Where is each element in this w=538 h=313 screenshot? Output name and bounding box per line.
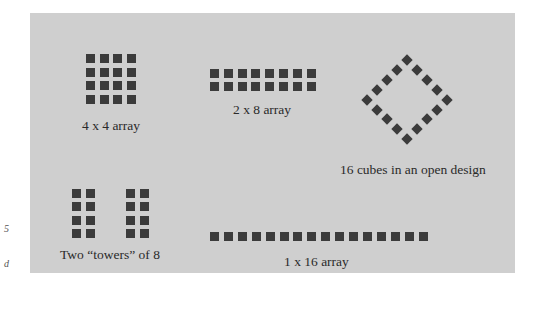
cube [251,69,260,78]
cube [86,202,95,211]
cube [210,69,219,78]
cube [127,81,136,90]
cube [100,95,109,104]
cube [421,114,432,125]
cube [307,232,316,241]
edge-text-fragment: 5 [4,223,9,234]
cube [86,216,95,225]
cube [113,68,122,77]
cube [126,229,135,238]
cube [391,64,402,75]
cube [113,81,122,90]
cube [140,216,149,225]
cube [431,104,442,115]
cube [372,104,383,115]
cube [382,74,393,85]
cube [113,95,122,104]
cube [411,124,422,135]
cube [113,54,122,63]
cube [127,95,136,104]
cube [126,202,135,211]
cube [411,64,422,75]
cube [72,229,81,238]
figure-panel: 4 x 4 array 2 x 8 array 16 cubes in an o… [30,13,515,273]
cube [382,114,393,125]
cube [127,54,136,63]
cube [86,229,95,238]
cube [210,82,219,91]
cube [224,69,233,78]
cube [362,94,373,105]
cube [401,134,412,145]
cube [391,124,402,135]
cube [321,232,330,241]
cube [126,189,135,198]
cube [72,189,81,198]
cube [391,232,400,241]
label-1x16: 1 x 16 array [284,254,349,270]
cube [265,69,274,78]
cube [441,94,452,105]
cube [140,229,149,238]
cube [265,82,274,91]
cube [405,232,414,241]
cube [307,82,316,91]
cube [100,68,109,77]
cube [100,54,109,63]
cube [238,69,247,78]
cube [349,232,358,241]
cube [224,232,233,241]
cube [140,202,149,211]
cube [363,232,372,241]
cube [86,189,95,198]
cube [86,68,95,77]
label-4x4: 4 x 4 array [82,118,140,134]
label-2x8: 2 x 8 array [233,102,291,118]
cube [252,232,261,241]
cube [86,81,95,90]
cube [238,232,247,241]
cube [210,232,219,241]
cube [266,232,275,241]
cube [372,84,383,95]
cube [431,84,442,95]
cube [419,232,428,241]
cube [72,216,81,225]
cube [280,232,289,241]
cube [126,216,135,225]
label-two-towers: Two “towers” of 8 [60,247,160,263]
cube [72,202,81,211]
cube [86,95,95,104]
cube [421,74,432,85]
cube [377,232,386,241]
cube [238,82,247,91]
edge-text-fragment: d [4,258,9,269]
cube [86,54,95,63]
cube [307,69,316,78]
cube [293,232,302,241]
cube [279,82,288,91]
cube [335,232,344,241]
cube [140,189,149,198]
cube [100,81,109,90]
cube [127,68,136,77]
cube [251,82,260,91]
cube [293,82,302,91]
cube [279,69,288,78]
cube [401,54,412,65]
cube [224,82,233,91]
cube [293,69,302,78]
label-open-design: 16 cubes in an open design [340,162,486,178]
